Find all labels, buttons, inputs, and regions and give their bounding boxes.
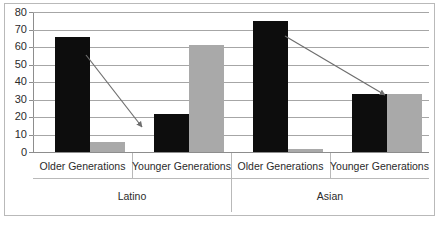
bar-light-latino-younger bbox=[189, 45, 224, 152]
bar-dark-latino-older bbox=[55, 37, 90, 153]
gridline-40 bbox=[33, 82, 429, 83]
bar-dark-asian-older bbox=[253, 21, 288, 152]
gridline-70 bbox=[33, 30, 429, 31]
y-tick-30: 30 bbox=[3, 94, 27, 105]
category-label-asian-younger: Younger Generations bbox=[330, 153, 429, 179]
y-tick-40: 40 bbox=[3, 76, 27, 87]
y-tick-60: 60 bbox=[3, 41, 27, 52]
bar-dark-latino-younger bbox=[154, 114, 189, 153]
group-label-band: Latino Asian bbox=[33, 179, 429, 212]
y-axis-labels: 80 70 60 50 40 30 20 10 0 bbox=[0, 0, 27, 226]
y-tick-80: 80 bbox=[3, 7, 27, 18]
category-label-band: Older Generations Younger Generations Ol… bbox=[33, 153, 429, 179]
category-label-latino-younger: Younger Generations bbox=[132, 153, 231, 179]
group-label-asian: Asian bbox=[231, 179, 429, 212]
y-tick-70: 70 bbox=[3, 24, 27, 35]
bar-dark-asian-younger bbox=[352, 94, 387, 152]
plot-area bbox=[33, 12, 429, 152]
bar-light-asian-older bbox=[288, 149, 323, 153]
bar-light-asian-younger bbox=[387, 94, 422, 152]
bar-light-latino-older bbox=[90, 142, 125, 153]
y-tick-10: 10 bbox=[3, 129, 27, 140]
group-label-latino: Latino bbox=[33, 179, 231, 212]
category-label-asian-older: Older Generations bbox=[231, 153, 330, 179]
y-tick-20: 20 bbox=[3, 111, 27, 122]
bar-chart: 80 70 60 50 40 30 20 10 0 bbox=[0, 0, 440, 226]
category-label-latino-older: Older Generations bbox=[33, 153, 132, 179]
y-tick-0: 0 bbox=[3, 147, 27, 158]
y-tick-50: 50 bbox=[3, 59, 27, 70]
gridline-60 bbox=[33, 47, 429, 48]
gridline-50 bbox=[33, 65, 429, 66]
gridline-80 bbox=[33, 12, 429, 13]
